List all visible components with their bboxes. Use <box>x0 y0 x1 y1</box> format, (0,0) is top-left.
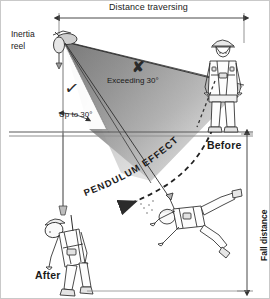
hanging-worker-figure <box>43 215 93 296</box>
exceeding-30-label: Exceeding 30° <box>107 77 159 85</box>
distance-traversing-dimension <box>59 13 244 43</box>
rope-after <box>59 133 67 215</box>
before-label: Before <box>207 140 241 151</box>
exceeding-30-x-mark: ✘ <box>132 59 145 75</box>
inertia-reel-label-line2: reel <box>11 42 25 51</box>
pendulum-effect-diagram: Distance traversing Inertia reel ✘ Excee… <box>0 0 270 299</box>
swinging-worker-figure <box>140 189 242 258</box>
distance-traversing-label: Distance traversing <box>109 3 188 12</box>
inertia-reel-label-line1: Inertia <box>11 30 35 39</box>
after-label: After <box>35 270 61 281</box>
fall-distance-label: Fall distance <box>260 210 269 262</box>
up-to-30-check-mark: ✓ <box>64 79 80 99</box>
up-to-30-label: Up to 30° <box>59 111 92 119</box>
